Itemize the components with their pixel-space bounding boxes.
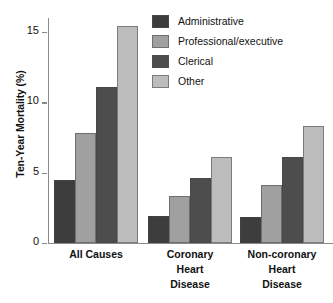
- y-axis-tick: 15: [21, 32, 47, 33]
- y-axis-tick: 0: [21, 243, 47, 244]
- bar: [148, 216, 169, 243]
- y-axis-tick: 10: [21, 102, 47, 103]
- legend-label: Professional/executive: [178, 35, 283, 47]
- legend-label: Clerical: [178, 55, 213, 67]
- x-axis-group-label-line: Non-coronary: [218, 247, 333, 262]
- legend-item: Clerical: [152, 51, 283, 71]
- y-axis-tick-label: 0: [33, 235, 39, 247]
- chart-legend: AdministrativeProfessional/executiveCler…: [152, 11, 283, 91]
- x-axis-line: [48, 243, 333, 244]
- y-axis-tick-label: 15: [27, 24, 39, 36]
- bar: [190, 178, 211, 243]
- bar: [54, 180, 75, 243]
- legend-item: Administrative: [152, 11, 283, 31]
- y-axis-tick-mark: [42, 243, 47, 244]
- legend-swatch: [152, 75, 169, 88]
- bar: [96, 87, 117, 243]
- bar: [261, 185, 282, 243]
- bar: [117, 26, 138, 243]
- y-axis-tick: 5: [21, 173, 47, 174]
- legend-swatch: [152, 35, 169, 48]
- legend-item: Professional/executive: [152, 31, 283, 51]
- bar: [211, 157, 232, 243]
- bar: [282, 157, 303, 243]
- legend-label: Other: [178, 75, 204, 87]
- bar: [169, 196, 190, 243]
- y-axis-tick-mark: [42, 102, 47, 103]
- legend-item: Other: [152, 71, 283, 91]
- x-axis-group-label-line: Heart: [218, 262, 333, 277]
- y-axis-tick-mark: [42, 32, 47, 33]
- y-axis-title: Ten-Year Mortality (%): [14, 44, 26, 204]
- bar: [75, 133, 96, 243]
- x-axis-group-label-line: Disease: [218, 277, 333, 292]
- y-axis-tick-label: 10: [27, 94, 39, 106]
- legend-label: Administrative: [178, 15, 244, 27]
- bar: [303, 126, 324, 243]
- legend-swatch: [152, 55, 169, 68]
- x-axis-group-label: Non-coronaryHeartDisease: [218, 247, 333, 292]
- bar-chart-figure: Ten-Year Mortality (%) 051015 All Causes…: [0, 0, 333, 303]
- legend-swatch: [152, 15, 169, 28]
- bar: [240, 217, 261, 243]
- y-axis-tick-label: 5: [33, 165, 39, 177]
- y-axis-tick-mark: [42, 173, 47, 174]
